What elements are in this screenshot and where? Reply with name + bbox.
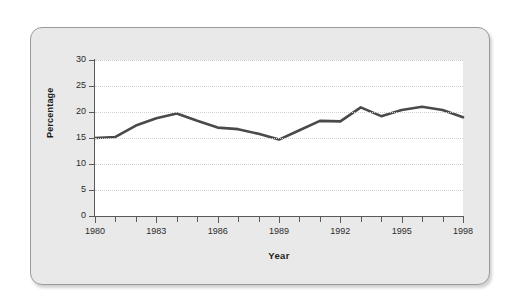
x-tick-mark bbox=[218, 216, 219, 223]
x-tick-mark bbox=[463, 216, 464, 223]
x-tick-mark bbox=[279, 216, 280, 223]
y-tick-label: 30 bbox=[76, 53, 86, 66]
x-tick-mark bbox=[402, 216, 403, 223]
y-tick-label: 0 bbox=[81, 209, 86, 222]
chart-panel: 051015202530 198019831986198919921995199… bbox=[30, 27, 490, 285]
gridline bbox=[95, 60, 463, 61]
gridline bbox=[95, 190, 463, 191]
gridline bbox=[95, 164, 463, 165]
x-tick-label: 1998 bbox=[453, 226, 473, 236]
y-tick-label: 25 bbox=[76, 79, 86, 92]
y-tick-label: 5 bbox=[81, 183, 86, 196]
x-tick-mark bbox=[340, 216, 341, 223]
x-axis-title: Year bbox=[95, 250, 463, 261]
y-axis-title: Percentage bbox=[45, 87, 55, 138]
y-tick-label: 15 bbox=[76, 131, 86, 144]
y-tick-label: 10 bbox=[76, 157, 86, 170]
y-tick-label: 20 bbox=[76, 105, 86, 118]
plot-wrapper: 051015202530 198019831986198919921995199… bbox=[31, 28, 489, 284]
x-tick-label: 1989 bbox=[269, 226, 289, 236]
x-tick-label: 1980 bbox=[85, 226, 105, 236]
x-tick-mark bbox=[95, 216, 96, 223]
x-tick-label: 1992 bbox=[330, 226, 350, 236]
gridline bbox=[95, 86, 463, 87]
y-axis-line bbox=[94, 59, 95, 217]
x-axis-line bbox=[94, 216, 464, 217]
x-tick-label: 1995 bbox=[392, 226, 412, 236]
x-tick-label: 1983 bbox=[146, 226, 166, 236]
x-tick-mark bbox=[156, 216, 157, 223]
x-tick-label: 1986 bbox=[208, 226, 228, 236]
gridline bbox=[95, 112, 463, 113]
gridline bbox=[95, 138, 463, 139]
